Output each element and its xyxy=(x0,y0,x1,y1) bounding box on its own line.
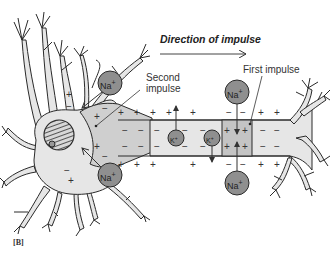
svg-text:−: − xyxy=(138,141,144,152)
svg-text:−: − xyxy=(260,125,266,136)
svg-text:−: − xyxy=(154,125,160,136)
svg-text:+: + xyxy=(150,159,156,170)
svg-text:+: + xyxy=(242,125,248,136)
svg-text:−: − xyxy=(226,159,232,170)
nucleolus xyxy=(49,141,55,147)
nucleus xyxy=(44,120,74,150)
potassium-ion-label: K+ xyxy=(170,133,178,146)
sodium-ion-label: Na+ xyxy=(227,86,243,101)
svg-text:+: + xyxy=(224,141,230,152)
svg-text:+: + xyxy=(118,107,124,118)
svg-text:+: + xyxy=(242,141,248,152)
svg-text:+: + xyxy=(94,141,100,152)
first-impulse-label: First impulse xyxy=(243,64,300,75)
svg-text:+: + xyxy=(68,175,74,186)
svg-text:−: − xyxy=(122,125,128,136)
svg-text:−: − xyxy=(66,101,72,112)
svg-text:+: + xyxy=(258,159,264,170)
svg-text:−: − xyxy=(226,107,232,118)
sodium-ion-label: Na+ xyxy=(227,177,243,192)
svg-text:+: + xyxy=(190,159,196,170)
svg-text:+: + xyxy=(224,125,230,136)
svg-text:+: + xyxy=(94,111,100,122)
neuron-diagram: +++++ −− ++ ++++ −− ++ −−−−− −−−−− −− −−… xyxy=(0,0,332,253)
svg-text:+: + xyxy=(258,107,264,118)
svg-text:−: − xyxy=(240,159,246,170)
svg-text:+: + xyxy=(274,107,280,118)
svg-text:−: − xyxy=(138,125,144,136)
svg-text:−: − xyxy=(122,141,128,152)
direction-of-impulse-label: Direction of impulse xyxy=(160,33,261,45)
svg-text:−: − xyxy=(240,107,246,118)
sodium-ion-label: Na+ xyxy=(100,77,116,92)
svg-text:+: + xyxy=(66,89,72,100)
svg-text:−: − xyxy=(102,151,108,162)
second-impulse-label: Second impulse xyxy=(146,72,180,94)
svg-text:−: − xyxy=(274,141,280,152)
svg-text:−: − xyxy=(260,141,266,152)
panel-label: [B] xyxy=(13,238,24,247)
potassium-ion-label: K+ xyxy=(206,133,214,146)
svg-text:+: + xyxy=(274,159,280,170)
svg-text:−: − xyxy=(154,141,160,152)
svg-text:−: − xyxy=(102,103,108,114)
svg-text:+: + xyxy=(190,107,196,118)
sodium-ion-label: Na+ xyxy=(100,169,116,184)
svg-text:+: + xyxy=(150,107,156,118)
svg-text:+: + xyxy=(134,107,140,118)
svg-text:+: + xyxy=(166,107,172,118)
svg-text:−: − xyxy=(274,125,280,136)
svg-text:+: + xyxy=(134,159,140,170)
